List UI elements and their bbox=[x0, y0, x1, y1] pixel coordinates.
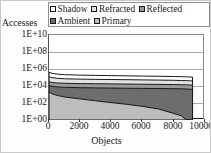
legend-item-refracted[interactable]: Refracted bbox=[91, 5, 135, 14]
y-tick-label: 1E+08 bbox=[3, 46, 47, 56]
legend-swatch-icon bbox=[139, 6, 145, 12]
legend-swatch-icon bbox=[94, 18, 100, 24]
legend-item-ambient[interactable]: Ambient bbox=[50, 17, 90, 26]
legend-item-shadow[interactable]: Shadow bbox=[50, 5, 87, 14]
legend-item-reflected[interactable]: Reflected bbox=[139, 5, 182, 14]
legend-label: Reflected bbox=[147, 5, 183, 14]
x-tick-label: 6000 bbox=[132, 121, 151, 131]
y-tick-label: 1E+10 bbox=[3, 29, 47, 39]
y-tick-label: 1E+02 bbox=[3, 97, 47, 107]
legend-label: Shadow bbox=[58, 5, 88, 14]
legend-swatch-icon bbox=[50, 6, 56, 12]
y-tick-label: 1E+04 bbox=[3, 80, 47, 90]
legend-row-1: Shadow Refracted Reflected bbox=[49, 3, 209, 15]
legend-swatch-icon bbox=[91, 6, 97, 12]
x-axis-title: Objects bbox=[1, 135, 211, 146]
x-tick-label: 0 bbox=[46, 121, 51, 131]
x-tick-label: 8000 bbox=[164, 121, 183, 131]
legend-label: Ambient bbox=[58, 17, 91, 26]
x-tick-label: 10000 bbox=[189, 121, 211, 131]
plot-area bbox=[48, 34, 204, 119]
chart-legend: Shadow Refracted Reflected Ambient Prima… bbox=[48, 2, 210, 27]
x-tick-label: 4000 bbox=[101, 121, 120, 131]
y-tick-label: 1E+06 bbox=[3, 63, 47, 73]
area-series-group bbox=[49, 35, 205, 120]
legend-row-2: Ambient Primary bbox=[49, 15, 209, 27]
y-tick-label: 1E+00 bbox=[3, 114, 47, 124]
legend-swatch-icon bbox=[50, 18, 56, 24]
legend-label: Refracted bbox=[99, 5, 135, 14]
legend-label: Primary bbox=[102, 17, 132, 26]
chart-figure: Shadow Refracted Reflected Ambient Prima… bbox=[0, 0, 211, 153]
y-axis-tick-labels: 1E+10 1E+08 1E+06 1E+04 1E+02 1E+00 bbox=[1, 1, 47, 153]
legend-item-primary[interactable]: Primary bbox=[94, 17, 131, 26]
x-tick-label: 2000 bbox=[70, 121, 89, 131]
